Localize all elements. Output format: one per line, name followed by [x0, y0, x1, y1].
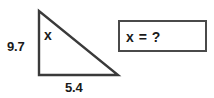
side-label-x: x: [44, 28, 52, 42]
triangle-outline: [39, 11, 118, 75]
answer-box-label: x = ?: [126, 29, 161, 45]
side-label-vertical-leg: 9.7: [7, 40, 24, 53]
math-problem-figure: x 9.7 5.4 x = ?: [0, 0, 214, 98]
right-triangle-diagram: x 9.7 5.4: [0, 0, 130, 98]
side-label-base: 5.4: [65, 81, 82, 94]
answer-box: x = ?: [118, 20, 207, 52]
